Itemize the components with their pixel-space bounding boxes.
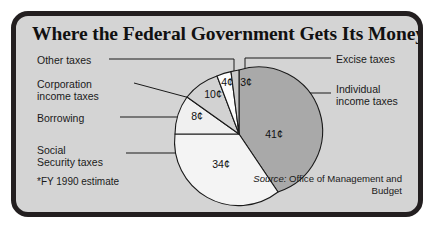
label-social-security-taxes: Social Security taxes [37, 144, 103, 169]
value-borrowing: 8¢ [191, 110, 203, 122]
leader-other-taxes [109, 59, 234, 76]
footnote: *FY 1990 estimate [37, 176, 119, 187]
value-excise: 3¢ [240, 76, 252, 88]
label-excise-taxes: Excise taxes [336, 53, 395, 65]
value-other: 4¢ [221, 76, 233, 88]
value-social: 34¢ [212, 158, 230, 170]
source-credit: Source: Office of Management and Budget [224, 173, 402, 197]
source-text: Office of Management and Budget [286, 173, 402, 196]
chart-frame: Where the Federal Government Gets Its Mo… [11, 11, 423, 217]
value-individual: 41¢ [265, 128, 283, 140]
label-borrowing: Borrowing [37, 112, 84, 124]
source-prefix: Source: [253, 173, 286, 184]
label-other-taxes: Other taxes [37, 54, 91, 66]
chart-screenshot: Where the Federal Government Gets Its Mo… [0, 0, 438, 232]
chart-inner: Where the Federal Government Gets Its Mo… [16, 16, 418, 212]
label-individual-income-taxes: Individual income taxes [336, 83, 398, 108]
value-corporation: 10¢ [204, 88, 222, 100]
label-corporation-income-taxes: Corporation income taxes [37, 78, 99, 103]
